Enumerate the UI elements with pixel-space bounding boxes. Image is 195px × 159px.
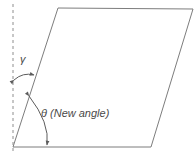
gamma-angle-label: γ xyxy=(20,54,26,65)
gamma-angle-arc xyxy=(14,74,34,80)
parallelogram-outline xyxy=(13,8,193,147)
diagram-canvas: γ θ (New angle) xyxy=(0,0,195,159)
theta-angle-label: θ (New angle) xyxy=(41,108,109,119)
diagram-svg xyxy=(0,0,195,159)
